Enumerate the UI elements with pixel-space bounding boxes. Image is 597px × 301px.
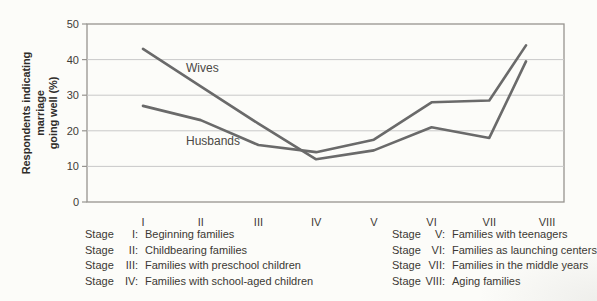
stage-description: Families with school-aged children	[145, 274, 313, 290]
stage-numeral: VII:	[422, 258, 445, 274]
stage-numeral: IV:	[115, 274, 138, 290]
stage-word: Stage	[392, 243, 422, 259]
stage-legend-row: StageVIII:Aging families	[392, 274, 597, 290]
stage-description: Aging families	[452, 274, 520, 290]
plot-border	[87, 24, 564, 202]
figure: Respondents indicating marriage going we…	[0, 0, 597, 301]
stage-legend-row: StageI:Beginning families	[85, 227, 313, 243]
stage-numeral: III:	[115, 258, 138, 274]
stage-numeral: VI:	[422, 243, 445, 259]
stage-numeral: VIII:	[422, 274, 445, 290]
stage-legend-row: StageVI:Families as launching centers	[392, 243, 597, 259]
stage-word: Stage	[392, 274, 422, 290]
stage-description: Families with preschool children	[145, 258, 301, 274]
y-tick-label: 10	[67, 160, 79, 172]
stage-legend-row: StageIII:Families with preschool childre…	[85, 258, 313, 274]
series-label-husbands: Husbands	[186, 134, 240, 148]
stage-legend-row: StageIV:Families with school-aged childr…	[85, 274, 313, 290]
stage-word: Stage	[85, 243, 115, 259]
y-tick-label: 40	[67, 54, 79, 66]
stage-legend-right-column: StageV:Families with teenagersStageVI:Fa…	[392, 227, 597, 289]
stage-description: Families with teenagers	[452, 227, 568, 243]
stage-numeral: I:	[115, 227, 138, 243]
series-label-wives: Wives	[186, 61, 219, 75]
stage-description: Families as launching centers	[452, 243, 597, 259]
stage-legend-row: StageII:Childbearing families	[85, 243, 313, 259]
stage-description: Childbearing families	[145, 243, 247, 259]
y-tick-label: 0	[73, 196, 79, 208]
stage-word: Stage	[85, 227, 115, 243]
y-tick-label: 30	[67, 89, 79, 101]
stage-description: Families in the middle years	[452, 258, 588, 274]
stage-numeral: V:	[422, 227, 445, 243]
y-tick-label: 50	[67, 18, 79, 30]
stage-legend-left-column: StageI:Beginning familiesStageII:Childbe…	[85, 227, 313, 289]
stage-word: Stage	[392, 258, 422, 274]
stage-word: Stage	[85, 258, 115, 274]
stage-word: Stage	[85, 274, 115, 290]
stage-numeral: II:	[115, 243, 138, 259]
stage-legend-row: StageVII:Families in the middle years	[392, 258, 597, 274]
stage-description: Beginning families	[145, 227, 234, 243]
stage-legend-row: StageV:Families with teenagers	[392, 227, 597, 243]
stage-word: Stage	[392, 227, 422, 243]
x-tick-label-V: V	[370, 216, 378, 228]
y-tick-label: 20	[67, 125, 79, 137]
